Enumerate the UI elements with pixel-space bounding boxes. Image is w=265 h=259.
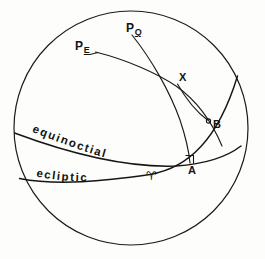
equinoctial-meridian-circle — [132, 35, 190, 163]
label-point-a: A — [188, 165, 196, 176]
label-pole-equinoctial-sub: Q — [134, 27, 142, 37]
label-point-b: B — [213, 119, 221, 130]
label-first-point-of-aries: ♈ — [146, 170, 157, 182]
latitude-arc-x-to-b — [178, 84, 208, 120]
label-point-x: X — [179, 72, 187, 83]
equinoctial-great-circle — [15, 133, 242, 166]
pole-ecliptic-tick — [90, 53, 98, 55]
ecliptic-longitude-circle — [96, 52, 223, 146]
label-pole-equinoctial: PQ — [126, 22, 142, 37]
diagram-canvas — [0, 0, 265, 259]
label-pole-ecliptic-sub: E — [83, 45, 90, 55]
label-pole-ecliptic: PE — [75, 40, 90, 55]
ecliptic-great-circle — [20, 76, 238, 182]
celestial-sphere-diagram: equinoctial ecliptic PE PQ X B A ♈ — [0, 0, 265, 259]
